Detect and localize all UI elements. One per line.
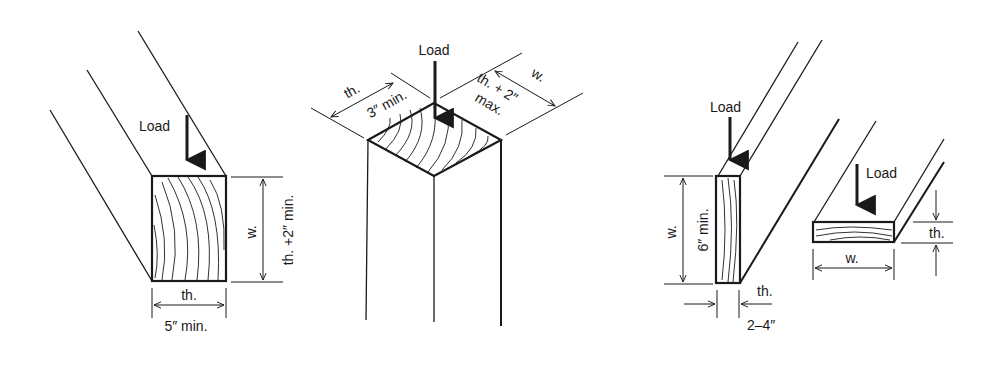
center-width-label: w. xyxy=(528,64,548,85)
right-edge-thickness-spec: 2–4″ xyxy=(747,317,775,333)
left-thickness-spec: 5″ min. xyxy=(164,318,207,334)
right-flat-plank-body xyxy=(813,121,944,242)
lumber-load-diagram: Load w. th. +2″ min. th. 5″ min. xyxy=(0,0,991,368)
right-edge-width-spec: 6″ min. xyxy=(695,208,711,251)
center-post-figure: Load th. 3″ min. w. th. + 2″ max. xyxy=(311,42,583,326)
right-flat-thickness-label: th. xyxy=(929,225,945,241)
right-edge-joist-figure: Load w. 6″ min. th. 2–4″ xyxy=(663,40,839,333)
right-edge-width-label: w. xyxy=(663,225,679,239)
left-beam-figure: Load w. th. +2″ min. th. 5″ min. xyxy=(50,31,296,334)
right-flat-plank-figure: Load th. w. xyxy=(813,121,953,280)
left-beam-grain xyxy=(154,177,224,280)
center-thickness-label: th. xyxy=(341,80,362,102)
right-flat-plank-grain xyxy=(816,227,892,240)
center-thickness-spec: 3″ min. xyxy=(364,86,409,121)
center-load-label: Load xyxy=(418,42,449,58)
left-width-label: w. xyxy=(243,225,259,239)
center-post-edges xyxy=(366,140,501,326)
left-beam-body xyxy=(50,31,226,281)
center-post-grain xyxy=(378,106,488,172)
right-flat-load-label: Load xyxy=(866,165,897,181)
right-flat-width-label: w. xyxy=(844,250,858,266)
left-thickness-label: th. xyxy=(181,287,197,303)
left-width-spec: th. +2″ min. xyxy=(280,195,296,266)
right-edge-joist-grain xyxy=(722,178,737,282)
left-load-label: Load xyxy=(139,118,170,134)
right-edge-load-label: Load xyxy=(710,99,741,115)
right-edge-thickness-label: th. xyxy=(757,283,773,299)
right-flat-thickness-dimension xyxy=(901,190,953,276)
right-edge-joist-body xyxy=(716,40,839,283)
